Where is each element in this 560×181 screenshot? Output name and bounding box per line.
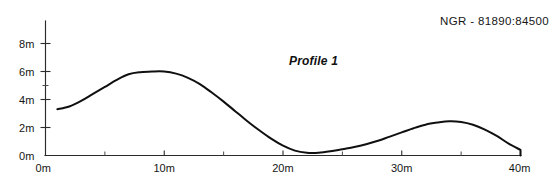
- profile-chart-figure: 0m2m4m6m8m 0m10m20m30m40m NGR - 81890:84…: [0, 0, 560, 181]
- chart-canvas: 0m2m4m6m8m 0m10m20m30m40m: [0, 0, 560, 181]
- y-tick-label-8m: 8m: [19, 38, 34, 50]
- profile-curve-line: [57, 71, 520, 155]
- x-tick-label-30m: 30m: [391, 162, 413, 174]
- x-tick-label-20m: 20m: [272, 162, 294, 174]
- y-tick-label-6m: 6m: [19, 66, 34, 78]
- x-axis-tick-labels: 0m10m20m30m40m: [36, 162, 531, 174]
- y-axis-tick-labels: 0m2m4m6m8m: [19, 38, 34, 162]
- y-tick-label-2m: 2m: [19, 122, 34, 134]
- axes-group: [45, 21, 521, 156]
- x-tick-label-10m: 10m: [153, 162, 175, 174]
- y-tick-label-4m: 4m: [19, 94, 34, 106]
- x-tick-label-0m: 0m: [36, 162, 51, 174]
- y-tick-label-0m: 0m: [19, 150, 34, 162]
- x-tick-label-40m: 40m: [509, 162, 531, 174]
- profile-title-label: Profile 1: [289, 54, 338, 68]
- ngr-reference-label: NGR - 81890:84500: [440, 15, 549, 27]
